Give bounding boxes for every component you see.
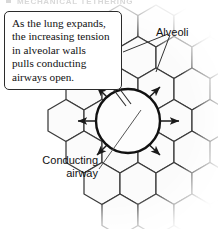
label-conducting-airway-line2: airway: [14, 167, 98, 180]
explanatory-callout: As the lung expands, the increasing tens…: [4, 11, 122, 90]
callout-line: the increasing tension: [12, 30, 115, 43]
callout-line: in alveolar walls: [12, 44, 115, 57]
callout-line: airways open.: [12, 71, 115, 84]
label-conducting-airway: Conducting airway: [14, 154, 98, 180]
conducting-airway-circle: [96, 89, 160, 153]
label-conducting-airway-line1: Conducting: [14, 154, 98, 167]
callout-line: pulls conducting: [12, 57, 115, 70]
figure-mechanical-tethering: MECHANICAL TETHERING: [0, 0, 218, 229]
callout-line: As the lung expands,: [12, 17, 115, 30]
label-alveoli: Alveoli: [156, 26, 188, 38]
